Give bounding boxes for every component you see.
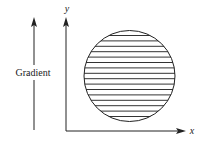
y-axis-label: y xyxy=(64,3,70,14)
y-axis xyxy=(63,17,69,131)
x-axis xyxy=(66,128,186,134)
hatched-circle xyxy=(80,31,180,122)
gradient-label: Gradient xyxy=(16,67,51,78)
x-axis-label: x xyxy=(189,125,195,136)
diagram-canvas: Gradient y x xyxy=(0,0,205,144)
